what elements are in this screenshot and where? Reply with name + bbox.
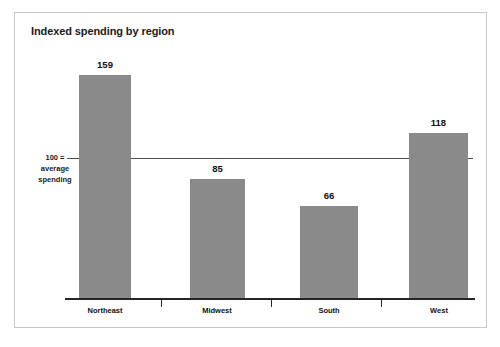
category-label-south: South [295,306,363,315]
axis-tick-2 [271,300,272,307]
axis-tick-3 [381,300,382,307]
bar-northeast [79,75,131,298]
bar-value-northeast: 159 [79,59,131,70]
axis-baseline [65,298,475,300]
plot-area: 100 = average spending 159 85 66 118 Nor… [15,13,486,327]
chart-figure: Indexed spending by region 100 = average… [14,12,487,328]
reference-line-label: 100 = average spending [29,152,81,185]
axis-tick-1 [161,300,162,307]
reference-line-label-line-3: spending [29,174,81,185]
reference-line-label-line-1: 100 = [29,152,81,163]
bar-west [409,133,468,298]
bar-midwest [190,179,245,298]
reference-line-label-line-2: average [29,163,81,174]
bar-value-west: 118 [409,117,468,128]
bar-south [300,206,358,298]
category-label-midwest: Midwest [183,306,251,315]
bar-value-midwest: 85 [190,163,245,174]
bar-value-south: 66 [300,190,358,201]
category-label-northeast: Northeast [71,306,139,315]
category-label-west: West [405,306,473,315]
